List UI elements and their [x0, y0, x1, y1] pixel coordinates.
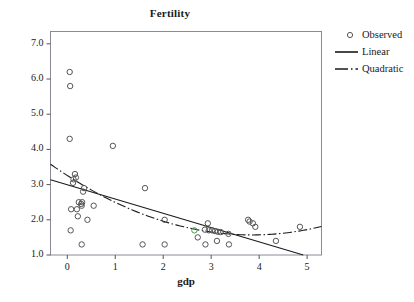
x-tick-label: 3 [201, 261, 221, 272]
plot-frame [51, 32, 322, 256]
data-point [67, 136, 72, 141]
data-point-highlighted [192, 228, 197, 233]
legend-item-linear: Linear [333, 43, 413, 60]
data-point [273, 238, 278, 243]
axis-tick-marks [47, 44, 308, 259]
data-point [203, 242, 208, 247]
data-point [162, 242, 167, 247]
data-point [195, 235, 200, 240]
chart-container: Fertility 1.02.03.04.05.06.07.0 012345 g… [0, 0, 414, 302]
data-point [79, 242, 84, 247]
legend-label-quadratic: Quadratic [359, 63, 403, 74]
data-point [72, 171, 77, 176]
open-circle-marker-icon [333, 28, 359, 42]
chart-legend: Observed Linear Quadratic [333, 26, 413, 77]
data-point [70, 180, 75, 185]
data-point [110, 143, 115, 148]
x-tick-label: 5 [297, 261, 317, 272]
x-tick-label: 2 [153, 261, 173, 272]
x-tick-label: 1 [105, 261, 125, 272]
data-point [67, 83, 72, 88]
y-tick-label: 6.0 [16, 72, 44, 83]
legend-label-linear: Linear [359, 46, 389, 57]
legend-item-quadratic: Quadratic [333, 60, 413, 77]
data-point [205, 221, 210, 226]
data-point [142, 185, 147, 190]
data-point [85, 217, 90, 222]
y-tick-label: 5.0 [16, 107, 44, 118]
solid-line-icon [333, 45, 359, 59]
data-point [68, 207, 73, 212]
data-point [226, 242, 231, 247]
data-point [140, 242, 145, 247]
dash-dot-line-icon [333, 62, 359, 76]
y-tick-label: 2.0 [16, 213, 44, 224]
y-tick-label: 3.0 [16, 178, 44, 189]
x-axis-label: gdp [50, 275, 322, 287]
data-point [297, 224, 302, 229]
y-tick-label: 4.0 [16, 142, 44, 153]
fit-lines [51, 164, 322, 255]
fit-line-quadratic [51, 164, 322, 235]
data-point [214, 238, 219, 243]
legend-item-observed: Observed [333, 26, 413, 43]
y-tick-label: 1.0 [16, 248, 44, 259]
data-point [75, 214, 80, 219]
data-point [67, 69, 72, 74]
data-point [91, 203, 96, 208]
legend-label-observed: Observed [359, 29, 402, 40]
data-point [68, 228, 73, 233]
observed-data-points [67, 69, 303, 247]
x-tick-label: 0 [57, 261, 77, 272]
x-tick-label: 4 [249, 261, 269, 272]
data-point [74, 207, 79, 212]
y-tick-label: 7.0 [16, 37, 44, 48]
